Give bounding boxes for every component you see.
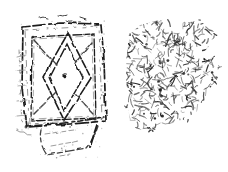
lozenge-outer [43, 33, 91, 120]
central-dot-tail [63, 74, 67, 75]
handle-dark-accent [90, 125, 97, 147]
diagonal-top-left [34, 40, 57, 65]
seal-reverse-fragment-drawing [120, 11, 227, 137]
stipple-texture [120, 11, 227, 137]
left-edge-hatches [16, 55, 27, 116]
corner-blob-br [93, 117, 96, 120]
central-dot [62, 75, 66, 79]
top-edge-scribbles [40, 15, 86, 21]
stamp-seal-face-drawing [16, 15, 106, 156]
corner-blob-tl [32, 36, 34, 38]
artifact-illustration [0, 0, 228, 172]
figure-canvas [0, 0, 228, 172]
handle-inner-strokes [45, 130, 79, 156]
corner-blob-tr [91, 34, 93, 36]
bottom-left-scribble [16, 130, 31, 135]
